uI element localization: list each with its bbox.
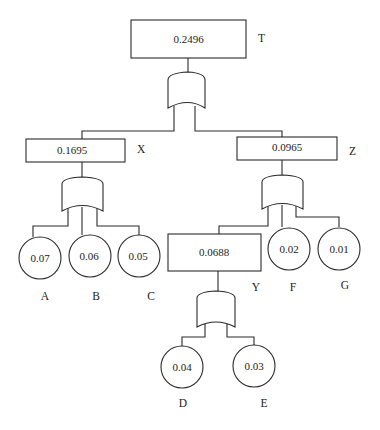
event-label: X [137,143,146,155]
event-label: D [179,397,187,409]
basic-event-D: 0.04 D [161,346,203,409]
or-gate-icon [262,175,303,209]
intermediate-event-Z: 0.0965 Z [237,137,356,160]
event-label: A [41,290,50,302]
intermediate-event-X: 0.1695 X [26,139,146,162]
basic-event-C: 0.05 C [118,235,160,302]
fault-tree-diagram: 0.2496 T 0.1695 X 0.0965 Z 0.07 A 0.06 B… [0,0,380,430]
event-label: E [260,397,267,409]
or-gate-icon [197,291,235,327]
event-label: Z [349,145,356,157]
or-gate-icon [62,177,103,211]
event-probability: 0.06 [79,250,99,262]
event-probability: 0.03 [244,360,264,372]
basic-event-F: 0.02 F [268,228,310,293]
event-probability: 0.2496 [173,33,204,45]
event-probability: 0.01 [329,243,348,255]
basic-event-G: 0.01 G [318,228,360,291]
event-label: G [341,279,349,291]
event-probability: 0.1695 [57,144,88,156]
event-label: Y [252,281,261,293]
event-probability: 0.02 [279,243,298,255]
intermediate-event-Y: 0.0688 Y [168,234,261,293]
basic-event-B: 0.06 B [69,235,111,302]
event-label: F [290,281,296,293]
event-label: T [258,32,265,44]
top-event-T: 0.2496 T [131,20,265,58]
basic-event-E: 0.03 E [233,345,275,409]
or-gate-icon [168,72,205,108]
basic-event-A: 0.07 A [19,237,61,302]
event-probability: 0.04 [172,361,192,373]
event-probability: 0.07 [30,252,50,264]
event-label: C [147,290,155,302]
event-probability: 0.0965 [272,141,303,153]
event-probability: 0.0688 [199,246,230,258]
event-label: B [92,290,100,302]
event-probability: 0.05 [128,250,148,262]
